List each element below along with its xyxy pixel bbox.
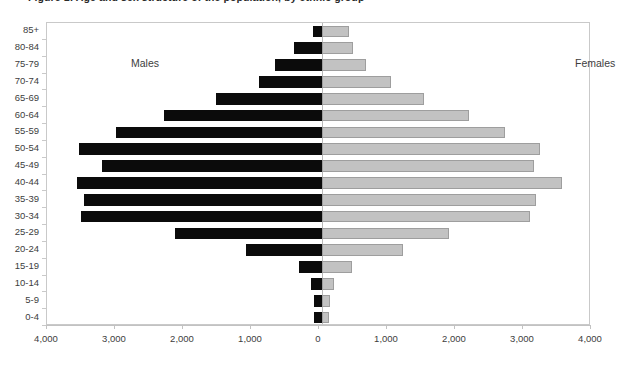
- bar-female-10-14[interactable]: [322, 278, 334, 290]
- bar-male-70-74[interactable]: [259, 76, 322, 88]
- y-axis-label-60-64: 60-64: [15, 109, 39, 120]
- bar-male-30-34[interactable]: [81, 211, 321, 223]
- y-axis-label-45-49: 45-49: [15, 159, 39, 170]
- bar-male-55-59[interactable]: [116, 127, 322, 139]
- bar-row: [47, 309, 589, 326]
- bar-female-75-79[interactable]: [322, 59, 366, 71]
- bar-female-35-39[interactable]: [322, 194, 536, 206]
- bar-row: [47, 90, 589, 107]
- bar-male-75-79[interactable]: [275, 59, 322, 71]
- x-axis-tick: [386, 325, 387, 329]
- bar-female-65-69[interactable]: [322, 93, 424, 105]
- x-axis-label-3: 1,000: [238, 333, 262, 344]
- bar-male-65-69[interactable]: [216, 93, 322, 105]
- bar-female-85+[interactable]: [322, 26, 349, 38]
- series-label-females: Females: [575, 57, 615, 69]
- y-axis-label-85+: 85+: [23, 24, 39, 35]
- series-label-males: Males: [131, 57, 159, 69]
- y-axis-label-80-84: 80-84: [15, 41, 39, 52]
- y-axis-label-35-39: 35-39: [15, 193, 39, 204]
- bar-male-85+[interactable]: [313, 26, 322, 38]
- y-axis-label-5-9: 5-9: [25, 294, 39, 305]
- x-axis-tick: [182, 325, 183, 329]
- y-axis-label-55-59: 55-59: [15, 125, 39, 136]
- bar-row: [47, 23, 589, 40]
- x-axis-label-5: 1,000: [374, 333, 398, 344]
- bar-female-40-44[interactable]: [322, 177, 562, 189]
- y-axis-label-0-4: 0-4: [25, 311, 39, 322]
- bar-row: [47, 242, 589, 259]
- bar-rows: [47, 23, 589, 324]
- bar-male-15-19[interactable]: [299, 261, 322, 273]
- bar-male-25-29[interactable]: [175, 228, 322, 240]
- y-axis-label-10-14: 10-14: [15, 277, 39, 288]
- bar-female-80-84[interactable]: [322, 42, 353, 54]
- bar-row: [47, 292, 589, 309]
- y-axis-label-65-69: 65-69: [15, 92, 39, 103]
- chart-title: Figure 1: Age and sex structure of the p…: [28, 0, 588, 3]
- bar-female-55-59[interactable]: [322, 127, 505, 139]
- x-axis-label-4: 0: [315, 333, 320, 344]
- y-axis-label-25-29: 25-29: [15, 226, 39, 237]
- bar-row: [47, 276, 589, 293]
- bar-male-60-64[interactable]: [164, 110, 322, 122]
- x-axis-label-7: 3,000: [510, 333, 534, 344]
- bar-male-50-54[interactable]: [79, 143, 321, 155]
- bar-female-15-19[interactable]: [322, 261, 352, 273]
- x-axis-label-6: 2,000: [442, 333, 466, 344]
- bar-row: [47, 225, 589, 242]
- y-axis-label-40-44: 40-44: [15, 176, 39, 187]
- x-axis-tick: [590, 325, 591, 329]
- bar-female-60-64[interactable]: [322, 110, 470, 122]
- bar-row: [47, 124, 589, 141]
- bar-female-0-4[interactable]: [322, 312, 329, 324]
- bar-row: [47, 107, 589, 124]
- x-axis-tick: [114, 325, 115, 329]
- y-axis-label-70-74: 70-74: [15, 75, 39, 86]
- bar-female-20-24[interactable]: [322, 244, 403, 256]
- bar-female-50-54[interactable]: [322, 143, 540, 155]
- bar-male-40-44[interactable]: [77, 177, 321, 189]
- x-axis-tick: [318, 325, 319, 329]
- x-axis-label-1: 3,000: [102, 333, 126, 344]
- y-axis-label-20-24: 20-24: [15, 243, 39, 254]
- bar-male-80-84[interactable]: [294, 42, 322, 54]
- x-axis-tick: [250, 325, 251, 329]
- bar-female-30-34[interactable]: [322, 211, 530, 223]
- bar-male-0-4[interactable]: [314, 312, 321, 324]
- bar-female-45-49[interactable]: [322, 160, 534, 172]
- y-axis-label-15-19: 15-19: [15, 260, 39, 271]
- y-axis-labels: 85+80-8475-7970-7465-6960-6455-5950-5445…: [0, 22, 42, 325]
- bar-male-35-39[interactable]: [84, 194, 322, 206]
- bar-male-10-14[interactable]: [311, 278, 322, 290]
- x-axis-label-8: 4,000: [578, 333, 602, 344]
- bar-row: [47, 191, 589, 208]
- bar-row: [47, 175, 589, 192]
- x-axis-tick: [46, 325, 47, 329]
- bar-male-45-49[interactable]: [102, 160, 322, 172]
- bar-male-5-9[interactable]: [314, 295, 321, 307]
- y-axis-label-75-79: 75-79: [15, 58, 39, 69]
- bar-row: [47, 208, 589, 225]
- bar-row: [47, 141, 589, 158]
- x-axis-label-2: 2,000: [170, 333, 194, 344]
- plot-area: Males Females: [46, 22, 590, 325]
- bar-female-25-29[interactable]: [322, 228, 449, 240]
- bar-female-5-9[interactable]: [322, 295, 330, 307]
- x-axis-tick: [522, 325, 523, 329]
- bar-row: [47, 74, 589, 91]
- y-axis-label-30-34: 30-34: [15, 210, 39, 221]
- bar-row: [47, 57, 589, 74]
- x-axis-label-0: 4,000: [34, 333, 58, 344]
- x-axis-tick: [454, 325, 455, 329]
- y-axis-label-50-54: 50-54: [15, 142, 39, 153]
- bar-row: [47, 259, 589, 276]
- bar-male-20-24[interactable]: [246, 244, 322, 256]
- bar-female-70-74[interactable]: [322, 76, 391, 88]
- bar-row: [47, 158, 589, 175]
- bar-row: [47, 40, 589, 57]
